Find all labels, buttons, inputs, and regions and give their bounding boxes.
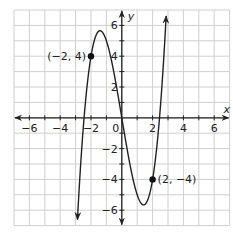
y-tick-label: −4 — [102, 173, 118, 186]
x-tick-label: 0 — [112, 122, 119, 135]
x-tick-label: −6 — [21, 122, 37, 135]
point-marker — [88, 53, 94, 59]
point-label: (−2, 4) — [47, 50, 86, 63]
x-tick-label: 2 — [149, 122, 156, 135]
x-tick-label: −2 — [83, 122, 99, 135]
function-graph: −6−4−20246−6−4−2246xy(−2, 4)(2, −4) — [0, 0, 233, 242]
y-tick-label: −2 — [102, 143, 118, 156]
y-axis-label: y — [127, 10, 135, 23]
y-tick-label: −6 — [102, 204, 118, 217]
x-axis-label: x — [223, 103, 231, 116]
y-tick-label: 6 — [111, 19, 118, 32]
x-tick-label: 6 — [211, 122, 218, 135]
point-label: (2, −4) — [158, 173, 197, 186]
x-tick-label: 4 — [180, 122, 187, 135]
x-tick-label: −4 — [52, 122, 68, 135]
point-marker — [149, 176, 155, 182]
